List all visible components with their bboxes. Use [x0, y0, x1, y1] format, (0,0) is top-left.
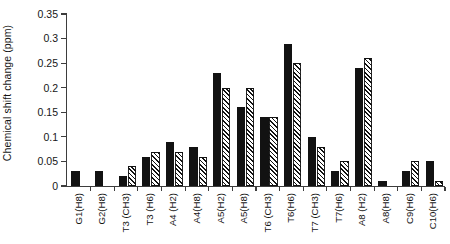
y-tick-label: 0.1 [18, 132, 58, 143]
x-tick-mark [397, 187, 398, 192]
x-tick-mark [421, 187, 422, 192]
y-axis-title: Chemical shift change (ppm) [0, 0, 14, 186]
x-tick-mark [444, 187, 445, 192]
x-tick-label: A4 (H2) [167, 160, 179, 193]
x-tick-label: T7(H6) [333, 163, 345, 193]
x-tick-label-text: A8 (H2) [356, 193, 368, 226]
x-tick-label: C9(H6) [404, 162, 416, 193]
x-tick-label: C10(H6) [427, 157, 439, 193]
x-tick-label: T3 (H6) [144, 160, 156, 193]
x-tick-label-text: G1(H8) [73, 193, 85, 224]
x-tick-mark [114, 187, 115, 192]
x-tick-label-text: A5(H2) [215, 193, 227, 223]
x-tick-label: A5(H2) [215, 163, 227, 193]
x-tick-label: A5(H8) [238, 163, 250, 193]
x-tick-mark [161, 187, 162, 192]
x-tick-label-text: A4 (H2) [167, 193, 179, 226]
y-tick-label: 0.05 [18, 156, 58, 167]
x-tick-label-text: C9(H6) [404, 193, 416, 224]
x-tick-label: T6(H6) [285, 163, 297, 193]
x-tick-mark [185, 187, 186, 192]
y-tick-label: 0.3 [18, 33, 58, 44]
x-tick-label-text: T3 (CH3) [120, 193, 132, 232]
x-tick-mark [90, 187, 91, 192]
x-tick-mark [350, 187, 351, 192]
x-tick-label: T6 (CH3) [262, 154, 274, 193]
x-tick-mark [374, 187, 375, 192]
x-tick-label-text: A4(H8) [191, 193, 203, 223]
y-tick-label: 0 [18, 181, 58, 192]
x-tick-label: G2(H8) [96, 162, 108, 193]
x-tick-label-text: T6(H6) [285, 193, 297, 223]
y-tick-label: 0.25 [18, 58, 58, 69]
y-tick-label: 0.15 [18, 107, 58, 118]
x-tick-label-text: C10(H6) [427, 193, 439, 229]
x-tick-label-text: A5(H8) [238, 193, 250, 223]
y-tick-label: 0.35 [18, 9, 58, 20]
x-tick-label-text: A8(H8) [380, 193, 392, 223]
x-tick-label-text: T7 (CH3) [309, 193, 321, 232]
x-tick-label: A8 (H2) [356, 160, 368, 193]
chart-container: Chemical shift change (ppm) 00.050.10.15… [0, 0, 450, 244]
x-tick-mark [208, 187, 209, 192]
x-tick-mark [303, 187, 304, 192]
x-tick-mark [326, 187, 327, 192]
x-tick-label: G1(H8) [73, 162, 85, 193]
x-tick-label-text: G2(H8) [96, 193, 108, 224]
x-tick-mark [255, 187, 256, 192]
x-tick-mark [279, 187, 280, 192]
x-tick-label: A4(H8) [191, 163, 203, 193]
x-tick-label: T7 (CH3) [309, 154, 321, 193]
x-tick-label: T3 (CH3) [120, 154, 132, 193]
x-tick-label-text: T6 (CH3) [262, 193, 274, 232]
x-tick-mark [137, 187, 138, 192]
x-tick-label-text: T7(H6) [333, 193, 345, 223]
x-tick-label: A8(H8) [380, 163, 392, 193]
x-tick-mark [232, 187, 233, 192]
x-tick-label-text: T3 (H6) [144, 193, 156, 226]
y-tick-label: 0.2 [18, 83, 58, 94]
